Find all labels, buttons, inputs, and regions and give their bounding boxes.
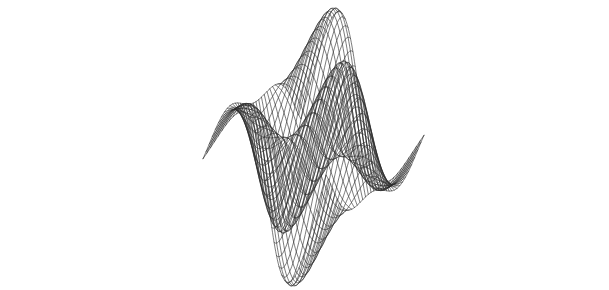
- wireframe-surface-plot: [0, 0, 609, 290]
- figure-root: [0, 0, 609, 290]
